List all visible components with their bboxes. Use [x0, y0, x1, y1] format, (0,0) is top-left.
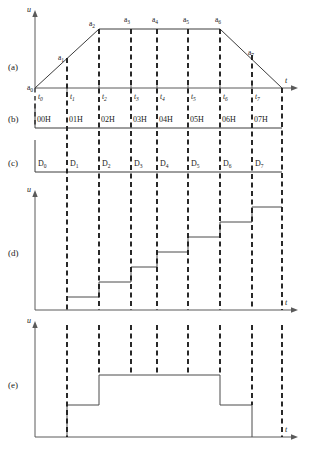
panel-e-y-axis-label: u: [27, 316, 31, 325]
tick-label-t5: t5: [191, 92, 196, 102]
panel-b-cell-7: 07H: [254, 115, 268, 124]
panel-a-y-axis-label: u: [27, 5, 31, 14]
row-label-b: (b): [8, 114, 19, 124]
point-label-a2: a2: [89, 19, 95, 29]
panel-b-cell-3: 03H: [133, 115, 147, 124]
tick-label-t0: t0: [38, 92, 43, 102]
panel-b-cell-0: 00H: [37, 115, 51, 124]
panel-e-pulse-waveform: [67, 375, 252, 437]
row-label-d: (d): [8, 248, 19, 258]
row-label-c: (c): [8, 158, 18, 168]
panel-d-x-axis-label: t: [285, 298, 288, 307]
panel-c-cell-0: D0: [38, 159, 47, 169]
point-label-a1: a1: [58, 53, 64, 63]
timing-diagram-page: u t a0 a1 a2 a3 a4 a5 a6 a7 t0 t1 t2 t3 …: [0, 0, 311, 457]
point-label-a3: a3: [124, 15, 130, 25]
point-label-a0: a0: [27, 83, 33, 93]
panel-b-cell-4: 04H: [159, 115, 173, 124]
panel-c-cell-3: D3: [134, 159, 143, 169]
panel-a-trapezoid-waveform: [35, 29, 282, 88]
tick-label-t4: t4: [160, 92, 165, 102]
tick-label-t2: t2: [102, 92, 107, 102]
point-label-a5: a5: [183, 15, 189, 25]
panel-c-cell-6: D6: [223, 159, 232, 169]
panel-c: D0 D1 D2 D3 D4 D5 D6 D7: [35, 140, 282, 172]
panel-e-x-axis-label: t: [285, 425, 288, 434]
tick-label-t1: t1: [70, 92, 75, 102]
point-label-a4: a4: [152, 15, 158, 25]
panel-b: 00H 01H 02H 03H 04H 05H 06H 07H: [35, 103, 282, 128]
panel-d-x-axis-arrow: [291, 307, 298, 312]
row-label-a: (a): [8, 62, 18, 72]
panel-d-y-axis-label: u: [27, 185, 31, 194]
panel-c-cell-4: D4: [160, 159, 169, 169]
tick-label-t7: t7: [255, 92, 260, 102]
panel-e-y-axis-arrow: [32, 321, 37, 328]
panel-c-cell-5: D5: [191, 159, 200, 169]
panel-a-x-axis-arrow: [291, 85, 298, 90]
panel-e-x-axis-arrow: [291, 434, 298, 439]
row-labels: (a) (b) (c) (d) (e): [8, 62, 19, 390]
panel-b-cell-6: 06H: [222, 115, 236, 124]
dashed-grid: [35, 29, 282, 437]
panel-b-cell-5: 05H: [190, 115, 204, 124]
panel-a-y-axis-arrow: [32, 10, 37, 17]
panel-b-cell-1: 01H: [69, 115, 83, 124]
tick-label-t3: t3: [134, 92, 139, 102]
panel-d-y-axis-arrow: [32, 190, 37, 197]
panel-c-cell-1: D1: [70, 159, 79, 169]
panel-a-x-axis-label: t: [285, 76, 288, 85]
panel-c-cell-2: D2: [102, 159, 111, 169]
tick-label-t6: t6: [223, 92, 228, 102]
timing-diagram-svg: u t a0 a1 a2 a3 a4 a5 a6 a7 t0 t1 t2 t3 …: [0, 0, 311, 457]
panel-c-cell-7: D7: [255, 159, 264, 169]
panel-b-cell-2: 02H: [101, 115, 115, 124]
point-label-a6: a6: [215, 15, 221, 25]
row-label-e: (e): [8, 380, 18, 390]
